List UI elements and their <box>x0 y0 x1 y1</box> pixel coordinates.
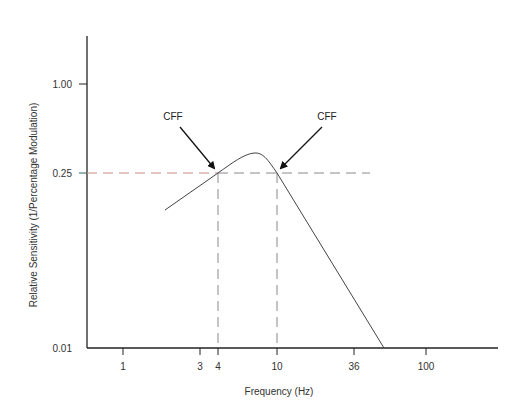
x-tick-label-100: 100 <box>418 361 435 372</box>
x-tick-label-10: 10 <box>271 361 283 372</box>
cff-label-left: CFF <box>163 111 182 122</box>
chart: 1.00 0.25 0.01 1 3 4 10 36 100 Frequency… <box>0 0 528 412</box>
cff-arrow-left <box>180 127 214 168</box>
x-tick-label-1: 1 <box>120 361 126 372</box>
y-axis-title: Relative Sensitivity (1/Percentage Modul… <box>28 103 39 308</box>
y-tick-label-3: 0.01 <box>53 343 73 354</box>
x-tick-label-3: 3 <box>197 361 203 372</box>
x-axis-title: Frequency (Hz) <box>245 386 314 397</box>
cff-label-right: CFF <box>317 111 336 122</box>
x-tick-label-4: 4 <box>215 361 221 372</box>
sensitivity-curve <box>165 153 384 348</box>
x-tick-label-36: 36 <box>348 361 360 372</box>
cff-arrow-right <box>281 127 322 168</box>
y-tick-label-2: 0.25 <box>53 168 73 179</box>
y-tick-label-1: 1.00 <box>53 79 73 90</box>
